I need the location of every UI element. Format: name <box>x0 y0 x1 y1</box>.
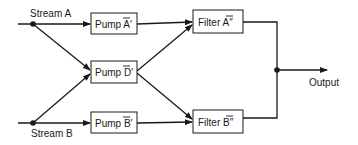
pump-b-prefix: Pump <box>95 118 124 129</box>
stream-b-input: Stream B <box>18 74 90 139</box>
filter-b-prefix: Filter <box>198 117 223 128</box>
filter-a-prefix: Filter <box>198 17 222 28</box>
stream-a-junction-dot <box>30 21 36 27</box>
pump-d-prefix: Pump <box>95 67 124 78</box>
output-label: Output <box>309 77 339 88</box>
stream-b-to-pump-d-arrow <box>33 74 90 123</box>
filter-a-mark: ″ <box>229 17 233 28</box>
pump-d-symbol: D <box>124 67 131 78</box>
stream-a-label: Stream A <box>30 8 71 19</box>
svg-text:Pump B′: Pump B′ <box>95 118 133 129</box>
pump-a-mark: ′ <box>130 19 132 30</box>
svg-text:Pump A′: Pump A′ <box>95 19 132 30</box>
output-junction-dot <box>274 67 280 73</box>
stream-b-junction-dot <box>30 120 36 126</box>
pump-d-to-filter-b-arrow <box>137 73 192 119</box>
filter-to-output-bus <box>243 22 277 118</box>
filter-b-mark: ″ <box>230 117 234 128</box>
pump-d-box: Pump D′ <box>91 61 137 83</box>
pump-b-mark: ′ <box>131 118 133 129</box>
pump-b-box: Pump B′ <box>91 112 137 133</box>
filter-b-box: Filter B″ <box>193 110 243 133</box>
flow-diagram: Stream A Stream B Output Pump A′ Pump D′… <box>0 0 358 145</box>
filter-a-box: Filter A″ <box>193 10 243 33</box>
pump-a-box: Pump A′ <box>91 13 137 34</box>
stream-b-label: Stream B <box>31 128 73 139</box>
pump-a-to-filter-a-arrow <box>137 22 192 24</box>
pump-d-mark: ′ <box>131 67 133 78</box>
stream-a-input: Stream A <box>18 8 90 70</box>
pump-d-to-filter-a-arrow <box>137 25 192 71</box>
stream-a-to-pump-d-arrow <box>33 24 90 70</box>
svg-text:Filter B″: Filter B″ <box>198 117 234 128</box>
svg-text:Filter A″: Filter A″ <box>198 17 233 28</box>
pump-a-prefix: Pump <box>95 19 123 30</box>
pump-b-to-filter-b-arrow <box>137 122 192 123</box>
svg-text:Pump D′: Pump D′ <box>95 67 133 78</box>
